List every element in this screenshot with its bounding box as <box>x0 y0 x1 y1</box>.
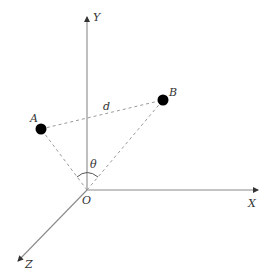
point-a <box>36 124 47 135</box>
point-a-label: A <box>29 112 38 125</box>
y-axis-label: Y <box>93 11 102 24</box>
segment-oa <box>41 129 87 190</box>
z-axis <box>18 190 87 261</box>
point-b-label: B <box>168 86 177 99</box>
origin-label: O <box>82 194 91 207</box>
segment-ob <box>87 100 163 190</box>
distance-label: d <box>103 100 110 113</box>
x-axis-label: X <box>247 197 257 210</box>
point-b <box>158 95 169 106</box>
segment-ab <box>41 100 163 129</box>
angle-label: θ <box>90 158 97 171</box>
coordinate-diagram: Y X Z O A B d θ <box>0 0 270 279</box>
z-axis-label: Z <box>24 258 33 271</box>
